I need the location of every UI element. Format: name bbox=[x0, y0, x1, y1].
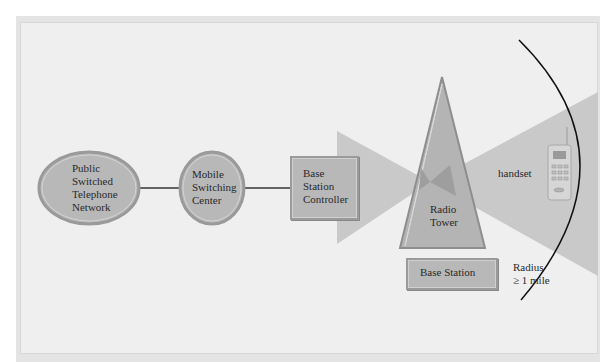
handset-label: handset bbox=[498, 167, 532, 180]
base-station-label: Base Station bbox=[420, 266, 475, 279]
msc-label: Mobile Switching Center bbox=[192, 168, 237, 207]
radio-tower-label: Radio Tower bbox=[430, 203, 458, 229]
bsc-label: Base Station Controller bbox=[303, 167, 348, 206]
pstn-label: Public Switched Telephone Network bbox=[72, 162, 118, 214]
radius-label: Radius ≥ 1 mile bbox=[513, 261, 550, 287]
